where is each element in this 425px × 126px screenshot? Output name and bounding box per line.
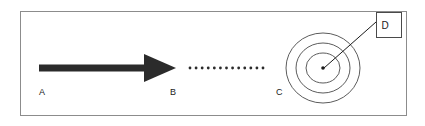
dotted-path-dot: [207, 67, 210, 70]
dotted-path-dot: [262, 67, 265, 70]
dotted-path-dot: [237, 67, 240, 70]
dotted-path-dot: [189, 67, 192, 70]
label-d: D: [381, 20, 388, 31]
dotted-path-dot: [225, 67, 228, 70]
dotted-path-dot: [219, 67, 222, 70]
arrow-shaft: [39, 65, 146, 72]
dotted-path-dot: [249, 67, 252, 70]
dotted-path-dot: [243, 67, 246, 70]
background: [0, 0, 425, 126]
dotted-path-dot: [213, 67, 216, 70]
dotted-path-dot: [201, 67, 204, 70]
dotted-path-dot: [256, 67, 259, 70]
callout-box-d: [377, 13, 402, 38]
dotted-path-dot: [231, 67, 234, 70]
diagram-canvas: A B C D: [0, 0, 425, 126]
label-a: A: [39, 87, 45, 97]
dotted-path-dot: [195, 67, 198, 70]
label-b: B: [170, 87, 176, 97]
label-c: C: [276, 87, 283, 97]
diagram-svg: A B C D: [0, 0, 425, 126]
